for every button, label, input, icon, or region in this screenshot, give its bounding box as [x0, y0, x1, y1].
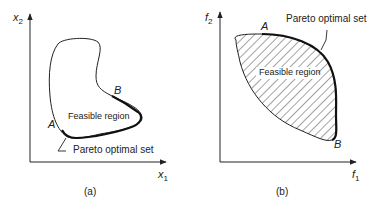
panel-a-pareto-leader [58, 138, 66, 151]
panel-b-point-a: A [261, 20, 268, 32]
panel-a-y-axis-label: x2 [13, 11, 23, 26]
panel-a-pareto-label: Pareto optimal set [73, 144, 154, 155]
panel-b-x-axis-label: f1 [352, 168, 360, 183]
panel-a-point-a: A [48, 118, 55, 130]
diagram-graphics [0, 0, 380, 205]
panel-a-point-b: B [114, 84, 121, 96]
panel-a-feasible-region [49, 38, 142, 138]
panel-a-x-axis-label: x1 [158, 168, 168, 183]
panel-b-y-axis-label: f2 [205, 11, 213, 26]
panel-b-caption: (b) [276, 186, 288, 197]
panel-a-region-label: Feasible region [68, 111, 130, 121]
panel-b-pareto-leader [321, 30, 327, 50]
panel-b-point-b: B [334, 138, 341, 150]
panel-b-pareto-label: Pareto optimal set [286, 13, 367, 24]
diagram-canvas: x2 x1 Feasible region A B Pareto optimal… [0, 0, 380, 205]
panel-b-region-label: Feasible region [259, 67, 321, 77]
panel-a-axes [30, 14, 166, 162]
panel-a-caption: (a) [84, 186, 96, 197]
